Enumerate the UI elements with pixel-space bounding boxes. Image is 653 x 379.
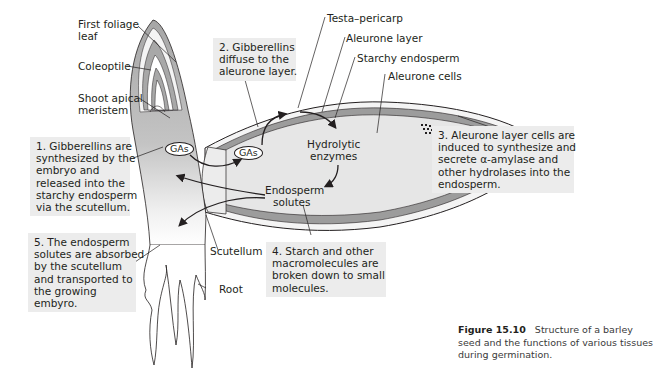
label-root: Root (219, 283, 243, 295)
label-aleurone-cells: Aleurone cells (388, 70, 462, 82)
step-5-box: 5. The endosperm solutes are absorbed by… (28, 233, 136, 312)
roots (144, 245, 206, 368)
figure-number: Figure 15.10 (458, 324, 526, 335)
step-4-box: 4. Starch and other macromolecules are b… (266, 242, 386, 297)
scutellum-shape (202, 147, 226, 214)
gas-bubble-endosperm: GAs (234, 146, 263, 160)
step-1-box: 1. Gibberellins are synthesized by the e… (30, 137, 130, 216)
label-hydrolytic-enzymes: Hydrolytic enzymes (307, 138, 360, 162)
label-first-foliage-leaf: First foliage leaf (78, 18, 139, 42)
gas-bubble-embryo: GAs (165, 142, 194, 156)
label-starchy-endosperm: Starchy endosperm (357, 52, 459, 64)
label-endosperm-solutes: Endosperm solutes (265, 184, 324, 208)
label-aleurone-layer: Aleurone layer (346, 32, 423, 44)
embryo (130, 20, 206, 245)
label-coleoptile: Coleoptile (78, 60, 131, 72)
step-3-box: 3. Aleurone layer cells are induced to s… (432, 126, 574, 193)
figure-caption: Figure 15.10 Structure of a barley seed … (458, 324, 653, 362)
label-scutellum: Scutellum (210, 245, 262, 257)
step-2-box: 2. Gibberellins diffuse to the aleurone … (213, 38, 296, 81)
label-shoot-apical-meristem: Shoot apical meristem (78, 92, 143, 116)
label-testa-pericarp: Testa–pericarp (327, 12, 403, 24)
